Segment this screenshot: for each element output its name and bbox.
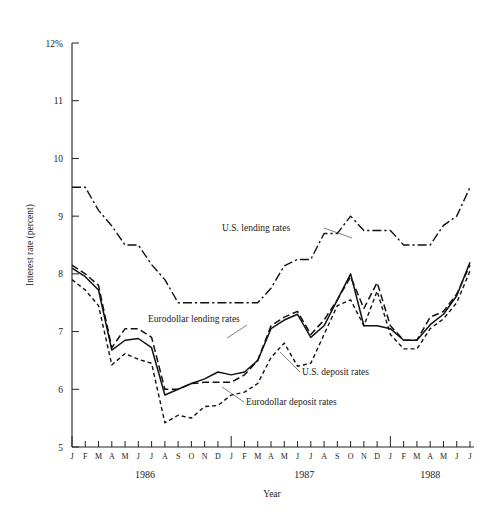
x-tick-label: J — [137, 452, 140, 461]
series-line-eurodollar-lending-rates — [72, 265, 470, 389]
x-tick-label: M — [122, 452, 129, 461]
x-tick-label: M — [440, 452, 447, 461]
x-tick-label: M — [413, 452, 420, 461]
y-tick-label: 8 — [58, 269, 63, 279]
x-tick-label: D — [215, 452, 221, 461]
year-group-label: 1988 — [420, 469, 440, 480]
leader-line — [324, 228, 352, 238]
x-tick-label: S — [176, 452, 180, 461]
x-tick-label: M — [281, 452, 288, 461]
series-label-eurodollar-deposit-rates: Eurodollar deposit rates — [246, 397, 337, 407]
interest-rate-line-chart: 56789101112% JFMAMJJASONDJFMAMJJASONDJFM… — [0, 0, 495, 512]
series-line-u-s-lending-rates — [72, 187, 470, 302]
x-tick-label: A — [427, 452, 433, 461]
x-tick-label: J — [150, 452, 153, 461]
x-axis-title: Year — [263, 489, 281, 499]
x-tick-label: N — [202, 452, 208, 461]
x-tick-label: O — [348, 452, 354, 461]
y-tick-label: 5 — [58, 443, 63, 453]
x-tick-label: M — [254, 452, 261, 461]
y-axis-title: Interest rate (percent) — [25, 204, 36, 286]
y-tick-label: 7 — [58, 327, 63, 337]
x-tick-label: D — [374, 452, 380, 461]
x-tick-label: J — [468, 452, 471, 461]
x-tick-label: S — [335, 452, 339, 461]
y-tick-label: 6 — [58, 385, 63, 395]
y-tick-label: 10 — [54, 154, 64, 164]
x-tick-label: J — [230, 452, 233, 461]
x-tick-label: J — [455, 452, 458, 461]
x-tick-label: N — [361, 452, 367, 461]
year-group-label: 1987 — [294, 469, 314, 480]
x-tick-label: A — [109, 452, 115, 461]
chart-figure: 56789101112% JFMAMJJASONDJFMAMJJASONDJFM… — [0, 0, 495, 512]
x-tick-label: J — [70, 452, 73, 461]
x-tick-label: F — [401, 452, 406, 461]
x-axis: JFMAMJJASONDJFMAMJJASONDJFMAMJJ198619871… — [70, 436, 474, 480]
y-axis: 56789101112% — [46, 39, 79, 453]
year-group-label: 1986 — [135, 469, 155, 480]
x-tick-label: A — [162, 452, 168, 461]
x-tick-label: J — [309, 452, 312, 461]
x-tick-label: O — [189, 452, 195, 461]
x-tick-label: F — [242, 452, 247, 461]
leader-line — [227, 325, 247, 338]
series-label-eurodollar-lending-rates: Eurodollar lending rates — [148, 314, 240, 324]
x-tick-label: F — [83, 452, 88, 461]
y-tick-label: 9 — [58, 212, 63, 222]
x-tick-label: M — [95, 452, 102, 461]
x-tick-label: A — [268, 452, 274, 461]
series-label-u-s-deposit-rates: U.S. deposit rates — [302, 367, 369, 377]
series-label-u-s-lending-rates: U.S. lending rates — [222, 223, 290, 233]
x-tick-label: A — [321, 452, 327, 461]
leader-line — [280, 352, 300, 372]
y-tick-label: 12% — [46, 39, 64, 49]
series-annotations: U.S. lending ratesEurodollar lending rat… — [148, 223, 369, 407]
x-tick-label: J — [389, 452, 392, 461]
y-tick-label: 11 — [54, 96, 63, 106]
x-tick-label: J — [296, 452, 299, 461]
